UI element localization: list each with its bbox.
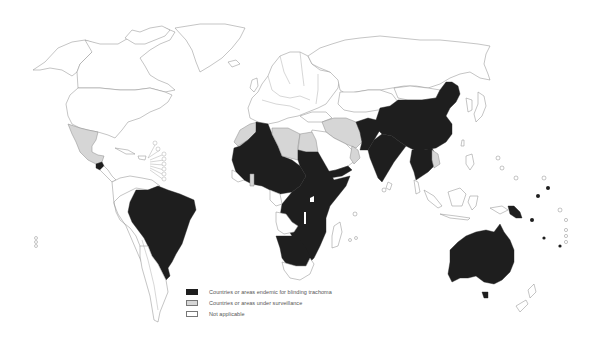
region-philippines xyxy=(466,154,474,170)
region-png xyxy=(508,206,522,218)
legend-swatch-endemic xyxy=(186,289,198,295)
region-sumatra xyxy=(424,190,442,208)
legend-item-endemic: Countries or areas endemic for blinding … xyxy=(186,287,332,297)
region-new-zealand xyxy=(516,284,536,312)
region-borneo xyxy=(448,188,466,206)
legend-label: Countries or areas endemic for blinding … xyxy=(209,289,332,295)
region-taiwan xyxy=(461,140,464,146)
region-cuba xyxy=(115,148,135,154)
region-iceland xyxy=(228,60,240,67)
region-sri-lanka xyxy=(386,182,392,190)
region-thailand xyxy=(432,150,440,168)
region-mongolia xyxy=(394,86,440,100)
legend: Countries or areas endemic for blinding … xyxy=(186,287,332,320)
region-hispaniola xyxy=(138,156,146,160)
legend-item-surveillance: Countries or areas under surveillance xyxy=(186,298,332,308)
region-papua-west xyxy=(490,206,508,214)
region-korea xyxy=(466,98,472,112)
region-central-america xyxy=(100,166,116,182)
region-australia xyxy=(448,224,514,284)
legend-swatch-not-applicable xyxy=(186,311,198,317)
region-tasmania xyxy=(482,292,488,298)
legend-label: Countries or areas under surveillance xyxy=(209,300,302,306)
region-malaysia-peninsula xyxy=(414,180,420,194)
legend-item-not-applicable: Not applicable xyxy=(186,309,332,319)
legend-swatch-surveillance xyxy=(186,300,198,306)
region-japan xyxy=(474,92,486,122)
region-ghana xyxy=(250,174,254,186)
region-madagascar xyxy=(332,222,342,248)
region-brazil xyxy=(128,186,196,280)
region-uk xyxy=(250,78,258,92)
caribbean-callout xyxy=(148,141,166,181)
region-java xyxy=(440,214,470,220)
legend-label: Not applicable xyxy=(209,311,245,317)
region-sulawesi xyxy=(468,196,478,210)
